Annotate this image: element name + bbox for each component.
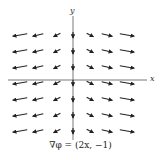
field-arrow [102, 50, 113, 53]
y-axis-label: y [70, 6, 75, 15]
field-arrow [87, 49, 94, 52]
field-arrow [87, 97, 94, 100]
field-arrow [33, 114, 44, 117]
field-arrow [87, 65, 94, 68]
field-arrow [33, 98, 44, 101]
field-arrow [33, 34, 44, 37]
field-arrow [54, 81, 61, 84]
field-arrow [87, 129, 94, 132]
figure-caption: ∇φ = (2x, −1) [0, 140, 161, 150]
field-arrow [102, 130, 113, 133]
field-arrow [54, 49, 61, 52]
field-arrow [33, 50, 44, 53]
field-arrow [33, 82, 44, 85]
field-arrow [87, 81, 94, 84]
field-arrow [54, 129, 61, 132]
field-arrow [102, 66, 113, 69]
field-arrow [102, 82, 113, 85]
field-arrow [13, 66, 27, 68]
vector-field-diagram [0, 0, 161, 160]
field-arrow [33, 66, 44, 69]
field-arrow [54, 65, 61, 68]
x-axis-label: x [150, 74, 155, 83]
field-arrow [87, 113, 94, 116]
field-arrow [120, 82, 134, 84]
field-arrow [102, 34, 113, 37]
field-arrow [102, 98, 113, 101]
field-arrow [120, 34, 134, 36]
field-arrow [120, 98, 134, 100]
field-arrow [13, 114, 27, 116]
field-arrow [120, 66, 134, 68]
field-arrow [102, 114, 113, 117]
field-arrow [13, 82, 27, 84]
field-arrow [33, 130, 44, 133]
field-arrow [13, 98, 27, 100]
field-arrow [54, 33, 61, 36]
field-arrow [54, 97, 61, 100]
field-arrow [120, 114, 134, 116]
field-arrow [120, 130, 134, 132]
field-arrow [54, 113, 61, 116]
field-arrow [13, 34, 27, 36]
field-arrow [120, 50, 134, 52]
field-arrow [87, 33, 94, 36]
field-arrow [13, 130, 27, 132]
field-arrow [13, 50, 27, 52]
field-arrows [13, 32, 134, 134]
